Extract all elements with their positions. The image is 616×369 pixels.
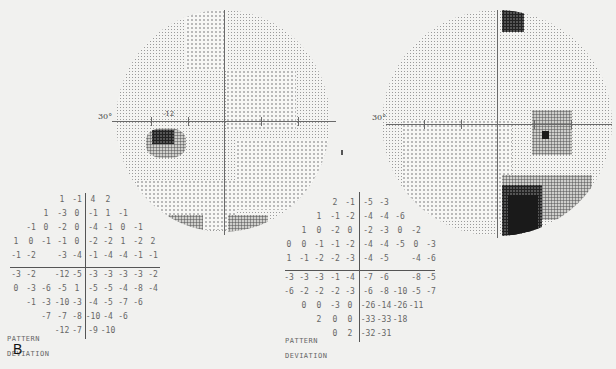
right-caption-deviation: DEVIATION (285, 352, 327, 360)
fixation-marker (341, 150, 343, 155)
panel-label: B (13, 341, 22, 357)
light-region (186, 10, 226, 70)
dense-scotoma (152, 130, 174, 144)
axis-tick (461, 120, 462, 129)
right-horizontal-axis (386, 124, 612, 125)
right-vertical-axis (497, 10, 498, 238)
axis-tick (261, 117, 262, 126)
axis-tick (298, 117, 299, 126)
inferior-defect (168, 215, 203, 232)
axis-tick (571, 120, 572, 129)
right-pattern-deviation-grid: 2-1-5-3 1-1-2-4-4-6 10-20-2-30-2 00-1-1-… (281, 198, 441, 338)
left-axis-30-label: 30° (98, 112, 112, 121)
axis-tick (188, 117, 189, 126)
absolute-scotoma (542, 131, 549, 139)
visual-field-figure: 30° -12 30° 1-142 1-30-11-1 -10-20-4-10-… (0, 0, 616, 369)
grid-horizontal-axis (285, 270, 435, 271)
axis-tick (424, 120, 425, 129)
absolute-inferior-defect (508, 195, 538, 235)
superior-defect (502, 10, 524, 32)
inferior-defect (228, 215, 268, 232)
left-caption-pattern: PATTERN (7, 335, 40, 343)
left-vertical-axis (224, 10, 225, 235)
right-caption-pattern: PATTERN (285, 337, 318, 345)
axis-tick (534, 120, 535, 129)
left-pattern-deviation-grid: 1-142 1-30-11-1 -10-20-4-10-1 10-1-10-2-… (8, 195, 168, 335)
axis-tick (151, 117, 152, 126)
left-plot-marker-value: -12 (163, 110, 174, 118)
right-axis-30-label: 30° (372, 113, 386, 122)
paracentral-defect (532, 110, 572, 155)
